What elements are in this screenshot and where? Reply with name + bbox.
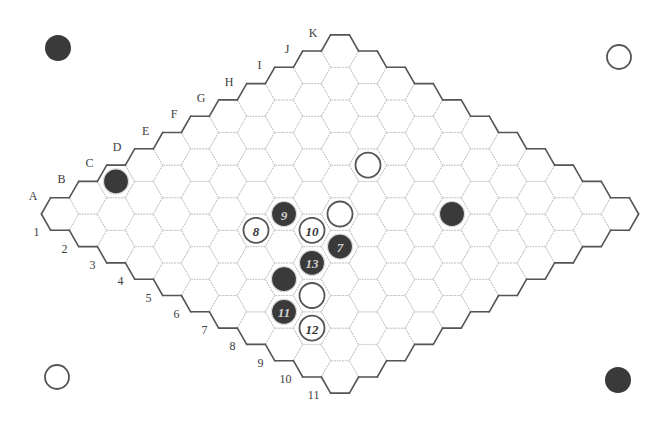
stone-disc	[272, 267, 297, 292]
black-stone-B8: 11	[272, 299, 297, 324]
column-label-J: J	[285, 42, 290, 56]
move-number: 12	[306, 322, 320, 337]
row-label-1: 1	[33, 225, 39, 239]
stone-disc	[300, 283, 325, 308]
row-label-3: 3	[89, 258, 95, 272]
bottom-left-white-corner-marker	[45, 365, 69, 389]
column-label-H: H	[225, 75, 234, 89]
stone-disc	[440, 202, 465, 227]
column-label-K: K	[309, 26, 318, 40]
column-label-E: E	[142, 124, 149, 138]
row-label-2: 2	[61, 242, 67, 256]
black-stone-C1	[104, 169, 129, 194]
white-stone-F6	[328, 202, 353, 227]
top-left-black-corner-marker	[45, 35, 71, 61]
black-stone-D7: 13	[300, 250, 325, 275]
move-number: 11	[278, 305, 290, 320]
white-stone-B9: 12	[300, 316, 325, 341]
black-stone-E7: 7	[328, 234, 353, 259]
row-label-7: 7	[201, 323, 207, 337]
row-label-4: 4	[117, 274, 123, 288]
move-number: 13	[306, 256, 320, 271]
row-label-9: 9	[257, 356, 263, 370]
row-label-11: 11	[308, 388, 320, 402]
column-label-C: C	[85, 156, 93, 170]
column-label-D: D	[113, 140, 122, 154]
column-label-G: G	[197, 91, 206, 105]
move-number: 8	[253, 224, 260, 239]
column-label-I: I	[257, 58, 261, 72]
white-stone-H5	[356, 153, 381, 178]
black-stone-E5: 9	[272, 202, 297, 227]
move-number: 9	[281, 208, 288, 223]
white-stone-C8	[300, 283, 325, 308]
stone-disc	[328, 202, 353, 227]
move-number: 10	[306, 224, 320, 239]
column-label-B: B	[57, 172, 65, 186]
white-stone-D5: 8	[244, 218, 269, 243]
row-label-6: 6	[173, 307, 179, 321]
stone-disc	[356, 153, 381, 178]
row-label-5: 5	[145, 291, 151, 305]
black-stone-H8	[440, 202, 465, 227]
top-right-white-corner-marker	[607, 45, 631, 69]
white-stone-E6: 10	[300, 218, 325, 243]
row-label-10: 10	[279, 372, 291, 386]
column-label-A: A	[29, 189, 38, 203]
stone-disc	[104, 169, 129, 194]
row-label-8: 8	[229, 339, 235, 353]
black-stone-C7	[272, 267, 297, 292]
move-number: 7	[337, 240, 344, 255]
bottom-right-black-corner-marker	[605, 367, 631, 393]
hex-board: ABCDEFGHIJK1234567891011 78910111213	[0, 0, 672, 424]
column-label-F: F	[171, 107, 178, 121]
